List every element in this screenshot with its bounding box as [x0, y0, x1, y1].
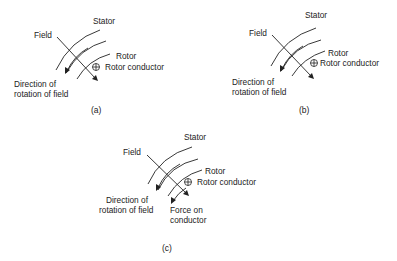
rotor-label: Rotor [116, 52, 136, 62]
rotor-label: Rotor [205, 167, 225, 177]
direction-label-line2: rotation of field [232, 88, 286, 98]
rotor-conductor-label: Rotor conductor [320, 59, 379, 69]
caption-a: (a) [91, 105, 101, 115]
field-label: Field [34, 31, 52, 41]
direction-label-line2: rotation of field [14, 90, 68, 100]
field-label: Field [123, 148, 141, 158]
force-label-line2: conductor [170, 216, 206, 226]
stator-label: Stator [184, 133, 206, 143]
stator-arc [148, 147, 192, 184]
panel-b: Stator Field Rotor Rotor conductor Direc… [200, 0, 397, 130]
caption-b: (b) [299, 105, 309, 115]
rotor-conductor-label: Rotor conductor [105, 63, 164, 73]
caption-c: (c) [162, 243, 172, 253]
stator-label: Stator [305, 11, 327, 21]
rotor-conductor-label: Rotor conductor [197, 178, 256, 188]
stator-arc [271, 28, 316, 66]
panel-a: Stator Field Rotor Rotor conductor Direc… [0, 0, 200, 130]
panel-c: Stator Field Rotor Rotor conductor Direc… [100, 130, 300, 260]
stator-label: Stator [93, 17, 115, 27]
direction-label-line2: rotation of field [99, 206, 153, 216]
stator-arc [56, 30, 100, 70]
force-arrow [173, 188, 186, 201]
field-label: Field [249, 29, 267, 39]
